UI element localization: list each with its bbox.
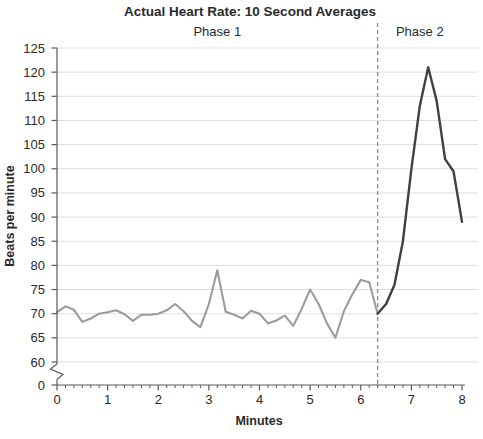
x-tick-label: 3	[205, 392, 212, 407]
axes	[51, 48, 466, 385]
x-tick-label: 8	[458, 392, 465, 407]
y-tick-label: 125	[23, 41, 45, 56]
x-axis-title: Minutes	[235, 414, 282, 428]
y-tick-label: 120	[23, 65, 45, 80]
phase1-label: Phase 1	[193, 24, 241, 39]
y-tick-label: 65	[31, 330, 45, 345]
series-line	[57, 270, 378, 338]
phase2-label: Phase 2	[396, 24, 444, 39]
y-tick-label: 0	[38, 378, 45, 393]
y-axis-tick-labels: 12512011511010510095908580757065600	[23, 41, 45, 393]
heart-rate-chart: 12512011511010510095908580757065600 0123…	[0, 0, 483, 439]
x-tick-label: 5	[307, 392, 314, 407]
y-axis-ticks	[52, 48, 58, 385]
y-tick-label: 105	[23, 137, 45, 152]
x-axis-tick-labels: 012345678	[53, 392, 465, 407]
y-axis-break	[51, 364, 64, 380]
y-tick-label: 75	[31, 282, 45, 297]
y-tick-label: 70	[31, 306, 45, 321]
x-tick-label: 6	[357, 392, 364, 407]
chart-canvas: 12512011511010510095908580757065600 0123…	[0, 0, 483, 439]
y-tick-label: 80	[31, 258, 45, 273]
gridlines	[57, 48, 478, 362]
y-tick-label: 100	[23, 161, 45, 176]
x-tick-label: 2	[155, 392, 162, 407]
y-axis-title: Beats per minute	[3, 165, 17, 266]
y-tick-label: 85	[31, 234, 45, 249]
chart-title: Actual Heart Rate: 10 Second Averages	[124, 4, 376, 19]
series-line	[378, 67, 462, 313]
y-tick-label: 115	[24, 89, 45, 104]
phase1-series-line	[57, 270, 378, 338]
y-tick-label: 90	[31, 210, 45, 225]
y-tick-label: 60	[31, 355, 45, 370]
x-tick-label: 0	[53, 392, 60, 407]
y-tick-label: 110	[24, 113, 45, 128]
x-tick-label: 1	[104, 392, 111, 407]
y-tick-label: 95	[31, 185, 45, 200]
x-axis-ticks	[57, 385, 462, 391]
x-tick-label: 7	[408, 392, 415, 407]
phase2-series-line	[378, 67, 462, 313]
x-tick-label: 4	[256, 392, 263, 407]
